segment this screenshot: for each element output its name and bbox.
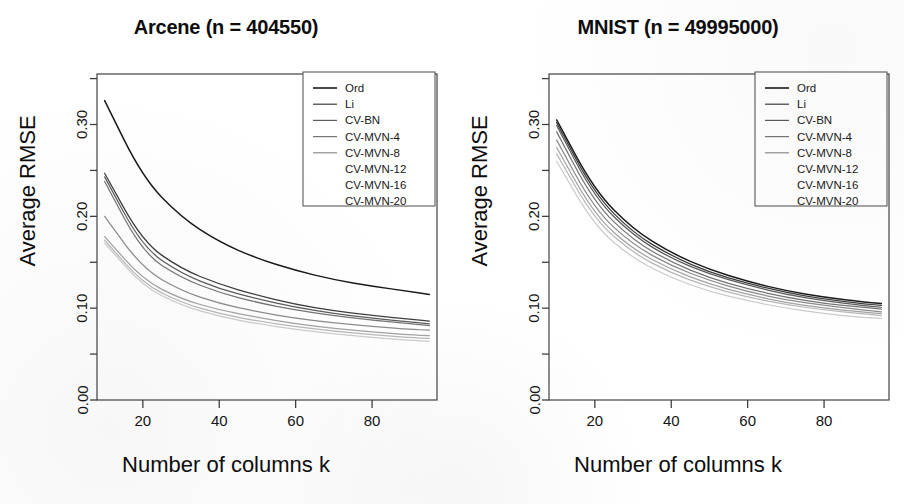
series-line-cv-mvn-20 <box>105 243 430 341</box>
x-axis-label-mnist: Number of columns k <box>452 452 904 478</box>
legend-label-cv-mvn-12: CV-MVN-12 <box>797 163 858 175</box>
x-tick-label: 60 <box>287 412 304 429</box>
y-tick-label: 0.00 <box>74 385 91 414</box>
x-tick-label: 80 <box>816 412 833 429</box>
legend-label-cv-mvn-20: CV-MVN-20 <box>345 195 406 207</box>
legend-label-cv-mvn-4: CV-MVN-4 <box>345 131 401 143</box>
legend-label-cv-mvn-16: CV-MVN-16 <box>345 179 406 191</box>
y-tick-label: 0.20 <box>74 202 91 231</box>
figure-root: Arcene (n = 404550) 0.000.100.200.302040… <box>0 0 904 504</box>
y-tick-label: 0.30 <box>526 110 543 139</box>
x-tick-label: 40 <box>211 412 228 429</box>
legend-label-li: Li <box>797 98 806 110</box>
x-tick-label: 60 <box>739 412 756 429</box>
legend-label-li: Li <box>345 98 354 110</box>
legend-label-cv-mvn-16: CV-MVN-16 <box>797 179 858 191</box>
x-tick-label: 40 <box>663 412 680 429</box>
panel-mnist: MNIST (n = 49995000) 0.000.100.200.30204… <box>452 0 904 504</box>
panel-arcene: Arcene (n = 404550) 0.000.100.200.302040… <box>0 0 452 504</box>
legend-label-ord: Ord <box>797 82 816 94</box>
y-tick-label: 0.00 <box>526 385 543 414</box>
y-axis-label-mnist: Average RMSE <box>467 71 493 311</box>
plot-arcene: 0.000.100.200.3020406080OrdLiCV-BNCV-MVN… <box>0 0 452 504</box>
x-tick-label: 20 <box>134 412 151 429</box>
series-line-cv-mvn-16 <box>105 240 430 338</box>
plot-mnist: 0.000.100.200.3020406080OrdLiCV-BNCV-MVN… <box>452 0 904 504</box>
legend-label-cv-mvn-20: CV-MVN-20 <box>797 195 858 207</box>
y-tick-label: 0.10 <box>74 294 91 323</box>
x-tick-label: 20 <box>586 412 603 429</box>
legend-label-cv-mvn-12: CV-MVN-12 <box>345 163 406 175</box>
y-axis-label-arcene: Average RMSE <box>15 71 41 311</box>
legend-label-cv-bn: CV-BN <box>797 114 832 126</box>
y-tick-label: 0.20 <box>526 202 543 231</box>
x-tick-label: 80 <box>364 412 381 429</box>
series-line-cv-mvn-8 <box>105 216 430 330</box>
x-axis-label-arcene: Number of columns k <box>0 452 452 478</box>
legend-label-cv-mvn-8: CV-MVN-8 <box>797 147 852 159</box>
legend-label-cv-mvn-8: CV-MVN-8 <box>345 147 400 159</box>
y-tick-label: 0.10 <box>526 294 543 323</box>
legend-label-cv-mvn-4: CV-MVN-4 <box>797 131 853 143</box>
legend-label-cv-bn: CV-BN <box>345 114 380 126</box>
legend-label-ord: Ord <box>345 82 364 94</box>
y-tick-label: 0.30 <box>74 110 91 139</box>
